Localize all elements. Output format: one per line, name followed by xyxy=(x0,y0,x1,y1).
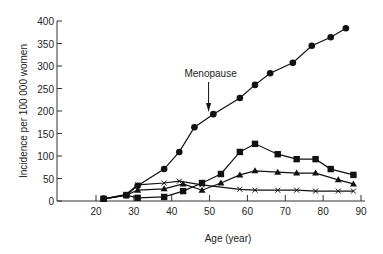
circle-marker xyxy=(252,82,259,89)
square-marker xyxy=(161,194,167,200)
square-marker xyxy=(328,166,334,172)
x-tick-label: 20 xyxy=(90,206,102,217)
y-tick-label: 250 xyxy=(37,84,54,95)
square-marker xyxy=(218,171,224,177)
x-axis-title: Age (year) xyxy=(205,233,252,244)
square-marker xyxy=(134,195,140,201)
square-marker xyxy=(252,141,258,147)
x-tick-label: 70 xyxy=(280,206,292,217)
circle-marker xyxy=(191,124,198,131)
y-tick-label: 200 xyxy=(37,106,54,117)
x-tick-label: 30 xyxy=(128,206,140,217)
x-tick-label: 80 xyxy=(318,206,330,217)
square-marker xyxy=(350,172,356,178)
square-marker xyxy=(180,188,186,194)
y-axis-title: Incidence per 100 000 women xyxy=(18,44,29,178)
arrow-down-icon xyxy=(206,103,211,112)
x-tick-label: 40 xyxy=(166,206,178,217)
circle-marker xyxy=(210,111,217,118)
square-marker xyxy=(293,156,299,162)
circle-marker xyxy=(343,25,350,32)
circle-marker xyxy=(308,42,315,49)
x-tick-label: 60 xyxy=(242,206,254,217)
square-marker xyxy=(275,151,281,157)
data-series xyxy=(100,25,357,202)
annotations: Menopause xyxy=(184,68,237,112)
series-square xyxy=(100,141,356,202)
y-tick-label: 50 xyxy=(43,174,55,185)
x-tick-label: 50 xyxy=(204,206,216,217)
y-tick-label: 350 xyxy=(37,39,54,50)
y-tick-label: 0 xyxy=(48,196,54,207)
circle-marker xyxy=(237,95,244,102)
circle-marker xyxy=(176,149,183,156)
circle-marker xyxy=(290,60,297,67)
circle-marker xyxy=(267,70,274,77)
square-marker xyxy=(312,156,318,162)
menopause-annotation-label: Menopause xyxy=(184,68,237,79)
y-tick-label: 300 xyxy=(37,61,54,72)
y-tick-label: 150 xyxy=(37,129,54,140)
incidence-line-chart: 0501001502002503003504002030405060708090… xyxy=(0,0,383,254)
circle-marker xyxy=(327,34,334,41)
axes: 0501001502002503003504002030405060708090 xyxy=(37,16,367,217)
x-tick-label: 90 xyxy=(355,206,367,217)
series-circle xyxy=(100,25,349,202)
square-marker xyxy=(237,149,243,155)
circle-marker xyxy=(161,166,168,173)
y-tick-label: 400 xyxy=(37,16,54,27)
y-tick-label: 100 xyxy=(37,151,54,162)
